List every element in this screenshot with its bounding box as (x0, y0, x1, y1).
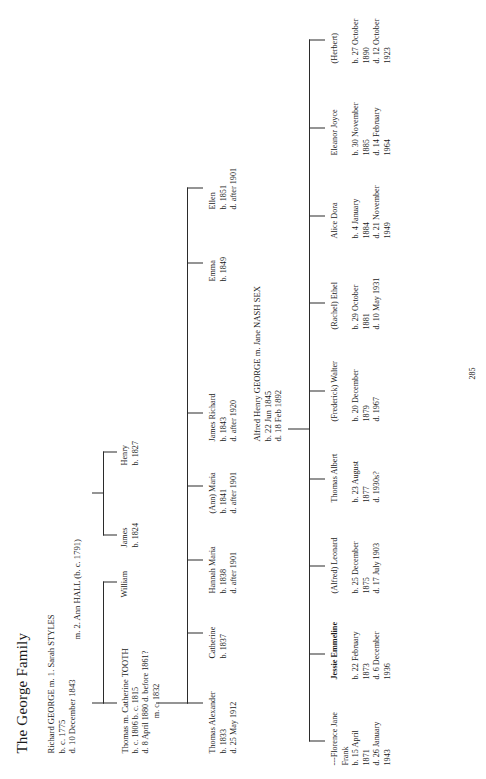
rule-gen2-drop-thomas (103, 702, 117, 703)
gen2-name-1: William (120, 570, 131, 597)
gen5-line-6-0: b. 4 January (351, 185, 362, 238)
gen5-name2-0: Frank (341, 712, 352, 765)
gen5-line-1-2: d. 6 December (372, 621, 383, 679)
gen3-line-6-0: b. 1851 (219, 167, 230, 209)
gen4-couple-label: Alfred Henry GEORGE m. Jane NASH SEX (252, 286, 263, 441)
rule-gen5-drop-6 (309, 215, 325, 216)
gen3-line-6-1: d. after 1901 (229, 167, 240, 209)
gen5-line-4-0: b. 20 December (351, 361, 362, 421)
gen5-person-florence-jane-frank: ---Florence Jane Frank b. 15 April 1871 … (330, 712, 393, 765)
gen3-line-2-1: d. after 1901 (229, 546, 240, 593)
gen5-line-6-1: 1884 (362, 185, 373, 238)
gen5-name-5: (Rachel) Ethel (330, 277, 341, 329)
gen5-person-eleanor-joyce: Eleanor Joyce b. 30 November 1885 d. 14 … (330, 102, 393, 155)
gen3-name-2: Hannah Maria (208, 546, 219, 593)
gen3-line-1-0: b. 1837 (219, 626, 230, 658)
gen5-spacer-7 (341, 102, 352, 155)
gen5-spacer-8 (341, 18, 352, 63)
gen5-name-6: Alice Dora (330, 185, 341, 238)
gen2-person-henry: Henry b. 1827 (120, 440, 141, 465)
gen3-person-ann-maria: (Ann) Maria b. 1841 d. after 1901 (208, 471, 240, 513)
gen3-line-4-0: b. 1843 (219, 393, 230, 441)
gen3-person-james-richard: James Richard b. 1843 d. after 1920 (208, 393, 240, 441)
gen2-person-james: James b. 1824 (120, 522, 141, 547)
gen2-name-0: Thomas m. Catherine TOOTH (120, 648, 131, 753)
rule-gen3-drop-3 (187, 485, 203, 486)
gen3-name-0: Thomas Alexander (208, 691, 219, 753)
gen2-name-3: Henry (120, 440, 131, 465)
page-frame: The George Family Richard GEORGE m. 1. S… (0, 0, 486, 779)
rule-gen2-sibling-bar-right (103, 451, 104, 535)
gen2-line-2-0: b. 1824 (131, 522, 142, 547)
gen2-line-0-1: d. 8 April 1880 d. before 1861? (141, 648, 152, 753)
gen5-line-8-1: 1890 (362, 18, 373, 63)
rule-gen5-drop-0 (309, 740, 325, 741)
gen5-spacer-3 (341, 453, 352, 502)
gen1-second-marriage: m. 2. Ann HALL (b. c. 1791) (72, 539, 83, 639)
gen5-line-1-3: 1936 (383, 621, 394, 679)
gen5-person-alice-dora: Alice Dora b. 4 January 1884 d. 21 Novem… (330, 185, 393, 238)
gen2-person-thomas: Thomas m. Catherine TOOTH b. c. 1806 b. … (120, 648, 162, 753)
gen5-spacer-1 (341, 621, 352, 679)
gen5-spacer-5 (341, 277, 352, 329)
page-number: 285 (468, 367, 477, 379)
gen5-line-2-2: d. 17 July 1903 (372, 537, 383, 593)
gen5-line-3-0: b. 23 August (351, 453, 362, 502)
gen5-line-8-0: b. 27 October (351, 18, 362, 63)
gen3-person-hannah-maria: Hannah Maria b. 1838 d. after 1901 (208, 546, 240, 593)
gen5-person-rachel-ethel: (Rachel) Ethel b. 29 October 1881 d. 10 … (330, 277, 383, 329)
gen5-line-1-0: b. 22 February (351, 621, 362, 679)
gen5-line-5-0: b. 29 October (351, 277, 362, 329)
gen3-person-catherine: Catherine b. 1837 (208, 626, 229, 658)
rule-gen2-drop-james (103, 534, 117, 535)
gen1-couple-label: Richard GEORGE m. 1. Sarah STYLES (46, 614, 57, 753)
gen5-spacer-4 (341, 361, 352, 421)
rule-gen3-drop-0 (187, 702, 203, 703)
gen3-line-3-1: d. after 1901 (229, 471, 240, 513)
gen3-name-6: Ellen (208, 167, 219, 209)
rule-gen5-drop-4 (309, 390, 325, 391)
gen3-person-thomas-alexander: Thomas Alexander b. 1833 d. 25 May 1912 (208, 691, 240, 753)
gen1-second-marriage-label: m. 2. Ann HALL (b. c. 1791) (72, 539, 83, 639)
gen3-line-4-1: d. after 1920 (229, 393, 240, 441)
rule-gen5-drop-3 (309, 478, 325, 479)
gen5-line-3-1: 1877 (362, 453, 373, 502)
rule-gen2-sibling-bar-left (103, 581, 104, 703)
rule-gen4-stem (288, 428, 310, 429)
gen3-line-5-0: b. 1849 (219, 256, 230, 281)
gen3-line-3-0: b. 1841 (219, 471, 230, 513)
gen5-line-7-2: d. 14 February (372, 102, 383, 155)
rule-gen5-drop-2 (309, 565, 325, 566)
rule-gen5-drop-7 (309, 127, 325, 128)
gen4-birth: b. 22 Jun 1845 (263, 286, 274, 441)
gen5-line-6-2: d. 21 November (372, 185, 383, 238)
gen5-line-1-1: 1873 (362, 621, 373, 679)
gen3-name-3: (Ann) Maria (208, 471, 219, 513)
gen5-spacer-6 (341, 185, 352, 238)
gen5-line-8-2: d. 12 October (372, 18, 383, 63)
gen5-line-5-2: d. 10 May 1931 (372, 277, 383, 329)
rule-gen3-drop-6 (187, 187, 203, 188)
gen5-line-2-1: 1875 (362, 537, 373, 593)
page-title: The George Family (14, 632, 31, 753)
rule-gen3-drop-2 (187, 559, 203, 560)
gen1-birth: b. c. 1775 (57, 614, 68, 753)
gen2-line-0-2: m. c. 1832 (152, 648, 163, 753)
gen5-line-0-3: 1943 (383, 712, 394, 765)
gen5-line-6-3: 1949 (383, 185, 394, 238)
gen5-person-thomas-albert: Thomas Albert b. 23 August 1877 d. 1930s… (330, 453, 383, 502)
gen5-person-alfred-leonard: (Alfred) Leonard b. 25 December 1875 d. … (330, 537, 383, 593)
gen3-person-emma: Emma b. 1849 (208, 256, 229, 281)
gen2-line-3-0: b. 1827 (131, 440, 142, 465)
gen5-name-7: Eleanor Joyce (330, 102, 341, 155)
gen5-line-4-1: 1879 (362, 361, 373, 421)
gen2-person-william: William (120, 570, 131, 597)
gen5-person-jessie-emmeline: Jessie Emmeline b. 22 February 1873 d. 6… (330, 621, 393, 679)
family-tree-sheet: The George Family Richard GEORGE m. 1. S… (0, 0, 486, 779)
gen5-line-2-0: b. 25 December (351, 537, 362, 593)
gen5-line-7-1: 1885 (362, 102, 373, 155)
gen5-name-0: ---Florence Jane (330, 712, 341, 765)
gen4-death: d. 18 Feb 1892 (273, 286, 284, 441)
gen5-spacer-2 (341, 537, 352, 593)
gen5-line-5-1: 1881 (362, 277, 373, 329)
